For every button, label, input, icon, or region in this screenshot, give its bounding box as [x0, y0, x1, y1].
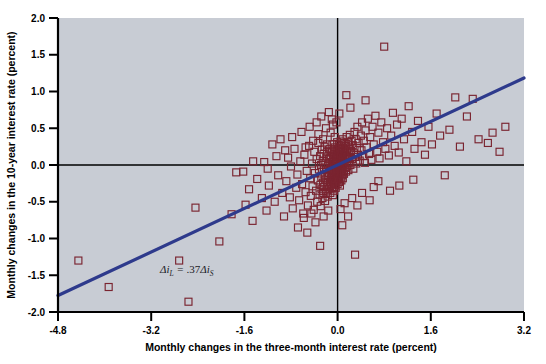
y-tick-label: 2.0 [31, 13, 45, 24]
x-tick-label: -3.2 [143, 325, 161, 336]
chart-canvas: -2.0-1.5-1.0-0.50.00.51.01.52.0 -4.8-3.2… [0, 0, 546, 364]
x-axis-label: Monthly changes in the three-month inter… [145, 341, 437, 353]
x-tick-label: 0.0 [331, 325, 345, 336]
x-tick-label: 3.2 [517, 325, 531, 336]
y-tick-label: -0.5 [28, 196, 46, 207]
y-tick-label: -2.0 [28, 307, 46, 318]
y-tick-label: -1.0 [28, 233, 46, 244]
x-tick-label: -4.8 [49, 325, 67, 336]
y-tick-label: 0.0 [31, 160, 45, 171]
scatter-plot-figure: -2.0-1.5-1.0-0.50.00.51.01.52.0 -4.8-3.2… [0, 0, 546, 364]
x-tick-label: 1.6 [424, 325, 438, 336]
y-tick-label: 0.5 [31, 123, 45, 134]
x-tick-label: -1.6 [236, 325, 254, 336]
y-tick-label: 1.0 [31, 86, 45, 97]
y-tick-label: -1.5 [28, 270, 46, 281]
y-axis-label: Monthly changes in the 10-year interest … [5, 31, 17, 298]
y-tick-label: 1.5 [31, 49, 45, 60]
